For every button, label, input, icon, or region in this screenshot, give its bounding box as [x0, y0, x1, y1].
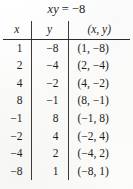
cell-x: −4 [3, 145, 31, 163]
column-header-y: y [31, 21, 68, 39]
table-row: −2 4 (−2, 4) [3, 128, 130, 146]
cell-y: 8 [31, 110, 68, 128]
table-body: 1 −8 (1, −8) 2 −4 (2, −4) 4 −2 (4, −2) 8… [3, 39, 130, 180]
cell-x: −1 [3, 110, 31, 128]
equation-left-side: xy [48, 2, 60, 16]
cell-ordered-pair: (−8, 1) [68, 163, 130, 181]
cell-y: 1 [31, 163, 68, 181]
cell-ordered-pair: (−4, 2) [68, 145, 130, 163]
column-header-x: x [3, 21, 31, 39]
table-header: x y (x, y) [3, 21, 130, 39]
cell-ordered-pair: (2, −4) [68, 57, 130, 75]
cell-x: 1 [3, 39, 31, 57]
equation-right-side: −8 [72, 2, 86, 16]
equation-equals-sign: = [59, 2, 72, 16]
cell-y: −1 [31, 92, 68, 110]
cell-y: 2 [31, 145, 68, 163]
header-row: x y (x, y) [3, 21, 130, 39]
table-row: 4 −2 (4, −2) [3, 75, 130, 93]
table-row: 8 −1 (8, −1) [3, 92, 130, 110]
cell-ordered-pair: (−2, 4) [68, 128, 130, 146]
table-row: −1 8 (−1, 8) [3, 110, 130, 128]
cell-y: −4 [31, 57, 68, 75]
table-figure: xy = −8 x y (x, y) 1 −8 (1, −8) 2 −4 (2, [0, 0, 133, 189]
cell-x: 4 [3, 75, 31, 93]
cell-ordered-pair: (4, −2) [68, 75, 130, 93]
column-header-ordered-pair: (x, y) [68, 21, 130, 39]
cell-y: −2 [31, 75, 68, 93]
cell-y: 4 [31, 128, 68, 146]
table-row: −4 2 (−4, 2) [3, 145, 130, 163]
cell-x: 8 [3, 92, 31, 110]
cell-ordered-pair: (1, −8) [68, 39, 130, 57]
value-table: x y (x, y) 1 −8 (1, −8) 2 −4 (2, −4) 4 −… [3, 21, 130, 180]
cell-ordered-pair: (−1, 8) [68, 110, 130, 128]
table-row: −8 1 (−8, 1) [3, 163, 130, 181]
cell-y: −8 [31, 39, 68, 57]
cell-x: −2 [3, 128, 31, 146]
table-row: 2 −4 (2, −4) [3, 57, 130, 75]
cell-x: 2 [3, 57, 31, 75]
table-row: 1 −8 (1, −8) [3, 39, 130, 57]
equation-title: xy = −8 [0, 1, 133, 17]
cell-x: −8 [3, 163, 31, 181]
cell-ordered-pair: (8, −1) [68, 92, 130, 110]
